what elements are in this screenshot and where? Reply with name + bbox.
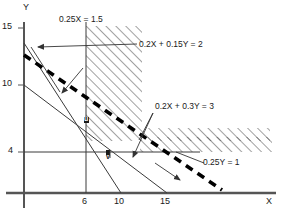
y-axis-label: Y <box>23 2 29 12</box>
figure-canvas: Y X 15 10 4 6 10 15 0.25X = 1.5 0.2X + 0… <box>0 0 281 221</box>
vertex-label-u: u <box>84 115 88 122</box>
vertex-label-v: v <box>106 153 110 160</box>
lp-feasible-region-plot <box>0 0 281 221</box>
constraint-label-025y: 0.25Y = 1 <box>203 157 239 167</box>
x-axis-label: X <box>266 196 272 206</box>
constraint-label-02x-03y: 0.2X + 0.3Y = 3 <box>155 101 214 111</box>
x-tick-label-10: 10 <box>114 196 124 206</box>
hatch-band-025y <box>140 137 272 152</box>
y-tick-label-4: 4 <box>8 145 13 155</box>
leader-objective <box>155 163 180 180</box>
constraint-label-025x: 0.25X = 1.5 <box>59 14 103 24</box>
x-tick-label-6: 6 <box>82 196 87 206</box>
leader-025x-b <box>31 47 60 92</box>
y-tick-label-10: 10 <box>2 78 12 88</box>
x-tick-label-15: 15 <box>160 196 170 206</box>
constraint-label-02x-015y: 0.2X + 0.15Y = 2 <box>139 39 203 49</box>
y-tick-label-15: 15 <box>2 21 12 31</box>
